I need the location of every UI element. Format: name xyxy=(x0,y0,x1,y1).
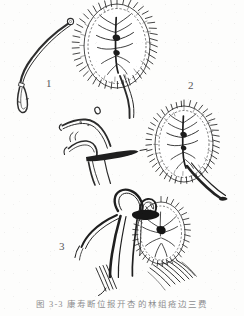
figure-3-drawing xyxy=(75,190,197,296)
figure-label-2: 2 xyxy=(188,80,194,91)
figure-label-3: 3 xyxy=(59,241,65,252)
figure-hook-drawing xyxy=(59,106,138,185)
figure-1-drawing xyxy=(18,18,74,112)
figure-plate: 1 2 3 图 3-3 康寿断位报开杏的林组疮边三费 xyxy=(0,0,244,316)
figure-label-1: 1 xyxy=(46,78,52,89)
figure-2-lower-drawing xyxy=(140,100,228,201)
figure-2-upper-drawing xyxy=(72,0,157,118)
figure-illustrations xyxy=(0,0,244,316)
figure-caption: 图 3-3 康寿断位报开杏的林组疮边三费 xyxy=(0,299,244,310)
